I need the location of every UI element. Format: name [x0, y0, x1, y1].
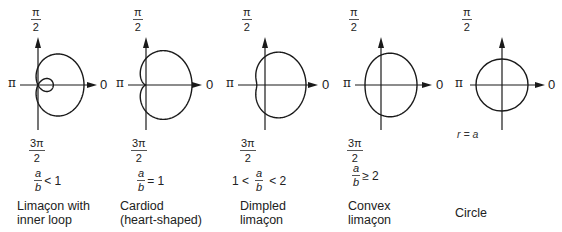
- caption-cardioid: Cardiod (heart-shaped): [120, 199, 202, 227]
- label-3pi-over-2: 3π 2: [29, 137, 45, 164]
- condition-cardioid: a b = 1: [135, 168, 164, 193]
- limacon-diagram-canvas: [0, 0, 562, 232]
- caption-convex: Convex limaçon: [348, 199, 391, 227]
- label-pi-over-2: π 2: [462, 6, 472, 33]
- label-pi: π: [226, 76, 234, 90]
- arrow-up-icon: [35, 37, 41, 48]
- label-3pi-over-2: 3π 2: [347, 137, 363, 164]
- ratio-fraction: a b: [352, 163, 360, 188]
- label-pi: π: [343, 76, 351, 90]
- caption-inner-loop: Limaçon with inner loop: [17, 199, 90, 227]
- condition-dimpled: 1 < a b < 2: [232, 168, 286, 193]
- label-zero: 0: [322, 77, 329, 92]
- ratio-fraction: a b: [34, 168, 42, 193]
- arrow-up-icon: [499, 37, 505, 48]
- label-zero: 0: [100, 77, 107, 92]
- ratio-fraction: a b: [137, 168, 145, 193]
- label-zero: 0: [206, 77, 213, 92]
- label-pi-over-2: π 2: [349, 6, 359, 33]
- condition-inner-loop: a b < 1: [32, 168, 61, 193]
- label-3pi-over-2: 3π 2: [240, 137, 256, 164]
- arrow-right-icon: [422, 82, 432, 88]
- label-pi: π: [116, 76, 124, 90]
- arrow-up-icon: [262, 37, 268, 48]
- label-zero: 0: [548, 77, 555, 92]
- label-3pi-over-2: 3π 2: [131, 137, 147, 164]
- arrow-up-icon: [378, 37, 384, 48]
- condition-convex: a b ≥ 2: [350, 163, 379, 188]
- caption-circle: Circle: [455, 206, 487, 220]
- label-pi: π: [8, 76, 16, 90]
- equation-r-equals-a: r = a: [457, 128, 478, 140]
- arrow-up-icon: [143, 37, 149, 48]
- arrow-right-icon: [192, 82, 202, 88]
- label-pi: π: [455, 76, 463, 90]
- label-pi-over-2: π 2: [31, 6, 41, 33]
- ratio-fraction: a b: [255, 168, 263, 193]
- arrow-right-icon: [308, 82, 318, 88]
- label-pi-over-2: π 2: [242, 6, 252, 33]
- label-zero: 0: [436, 77, 443, 92]
- arrow-right-icon: [87, 82, 97, 88]
- label-pi-over-2: π 2: [133, 6, 143, 33]
- arrow-right-icon: [535, 82, 545, 88]
- caption-dimpled: Dimpled limaçon: [240, 199, 286, 227]
